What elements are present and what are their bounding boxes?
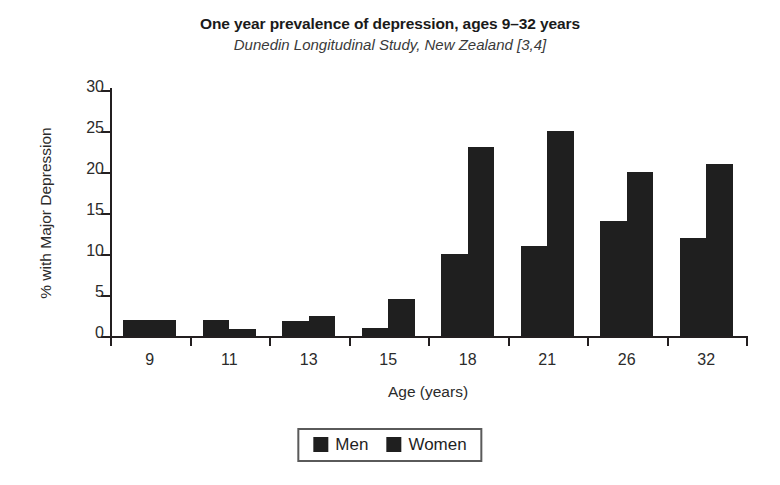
chart-title: One year prevalence of depression, ages … xyxy=(0,14,780,33)
x-tick-label-11: 11 xyxy=(221,352,238,368)
y-tick-label: 25 xyxy=(86,120,104,136)
chart-figure: One year prevalence of depression, ages … xyxy=(0,0,780,485)
y-tick-label: 10 xyxy=(86,243,104,259)
bar-men-32 xyxy=(680,238,707,336)
bar-women-32 xyxy=(706,164,733,336)
x-tick-label-26: 26 xyxy=(618,352,636,368)
x-tick-mark xyxy=(428,336,430,346)
bar-group xyxy=(508,90,588,336)
x-tick-mark xyxy=(587,336,589,346)
bar-men-26 xyxy=(600,221,627,336)
bar-group xyxy=(428,90,508,336)
x-tick-mark xyxy=(269,336,271,346)
bar-group xyxy=(587,90,667,336)
y-tick-label: 30 xyxy=(86,79,104,95)
bar-men-11 xyxy=(203,320,230,336)
bar-men-18 xyxy=(441,254,468,336)
x-tick-label-18: 18 xyxy=(459,352,477,368)
bar-men-21 xyxy=(521,246,548,336)
legend-swatch-icon xyxy=(386,437,401,452)
bar-group xyxy=(190,90,270,336)
y-tick-label: 5 xyxy=(95,284,104,300)
bar-women-21 xyxy=(547,131,574,336)
bar-women-26 xyxy=(627,172,654,336)
chart-subtitle: Dunedin Longitudinal Study, New Zealand … xyxy=(0,35,780,55)
legend-item-men[interactable]: Men xyxy=(313,436,368,453)
bar-women-9 xyxy=(150,320,177,336)
bar-women-11 xyxy=(229,329,256,336)
plot-area: 051015202530 xyxy=(110,90,746,336)
y-tick-label: 20 xyxy=(86,161,104,177)
x-tick-mark xyxy=(508,336,510,346)
y-axis-title-text: % with Major Depression xyxy=(37,127,55,298)
bar-groups xyxy=(110,90,746,336)
legend-item-women[interactable]: Women xyxy=(386,436,466,453)
x-tick-mark xyxy=(746,336,748,346)
x-tick-mark xyxy=(667,336,669,346)
x-tick-label-13: 13 xyxy=(300,352,318,368)
x-tick-label-15: 15 xyxy=(379,352,397,368)
bar-group xyxy=(110,90,190,336)
x-tick-label-32: 32 xyxy=(697,352,715,368)
x-tick-mark xyxy=(190,336,192,346)
chart-legend: MenWomen xyxy=(297,428,482,462)
bar-group xyxy=(667,90,747,336)
x-axis-title: Age (years) xyxy=(110,383,746,401)
title-block: One year prevalence of depression, ages … xyxy=(0,14,780,55)
legend-label: Men xyxy=(335,436,368,453)
y-tick-label: 15 xyxy=(86,202,104,218)
bar-men-15 xyxy=(362,328,389,336)
legend-label: Women xyxy=(408,436,466,453)
y-tick-label: 0 xyxy=(95,325,104,341)
x-tick-label-21: 21 xyxy=(538,352,556,368)
bar-women-13 xyxy=(309,316,336,337)
bar-men-13 xyxy=(282,321,309,336)
x-tick-mark xyxy=(110,336,112,346)
bar-group xyxy=(269,90,349,336)
bar-group xyxy=(349,90,429,336)
bar-women-15 xyxy=(388,299,415,336)
bar-women-18 xyxy=(468,147,495,336)
x-tick-mark xyxy=(349,336,351,346)
legend-swatch-icon xyxy=(313,437,328,452)
bar-men-9 xyxy=(123,320,150,336)
x-tick-label-9: 9 xyxy=(145,352,154,368)
